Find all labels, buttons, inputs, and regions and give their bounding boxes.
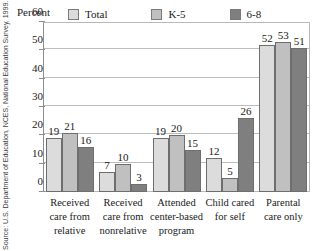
category-label: Receivedcare fromnonrelative	[92, 196, 153, 238]
bar-value-label: 10	[111, 152, 135, 163]
y-tick-label: 10	[17, 147, 43, 158]
bar-total	[259, 45, 275, 192]
bar-k-5	[275, 42, 291, 192]
bar-total	[153, 138, 169, 192]
legend-swatch-icon	[68, 9, 79, 20]
y-axis-labels: 0102030405060	[11, 22, 43, 192]
y-tick-label: 20	[17, 119, 43, 130]
bar-6-8	[185, 150, 201, 193]
category-label-line: relative	[39, 224, 100, 238]
bar-value-label: 16	[74, 135, 98, 146]
y-tick-label: 60	[17, 6, 43, 17]
category-label-line: program	[146, 224, 207, 238]
legend-swatch-icon	[151, 9, 162, 20]
y-tick-label: 40	[17, 62, 43, 73]
bar-6-8	[238, 118, 254, 192]
y-tick-label: 30	[17, 91, 43, 102]
bar-group: 7103	[99, 22, 147, 192]
category-label-line: nonrelative	[92, 224, 153, 238]
legend-label: Total	[85, 9, 107, 20]
bar-value-label: 12	[202, 146, 226, 157]
bar-k-5	[222, 178, 238, 192]
legend-swatch-icon	[230, 9, 241, 20]
category-label-line: center-based	[146, 210, 207, 224]
category-label-line: Received	[39, 196, 100, 210]
category-label-line: for self	[199, 210, 260, 224]
legend-item-6-8: 6-8	[230, 6, 262, 22]
category-label: Child caredfor self	[199, 196, 260, 224]
category-label: Parentalcare only	[253, 196, 314, 224]
bar-value-label: 26	[234, 106, 258, 117]
category-label: Attendedcenter-basedprogram	[146, 196, 207, 238]
category-label-line: care from	[92, 210, 153, 224]
bar-value-label: 15	[181, 138, 205, 149]
bar-total	[46, 138, 62, 192]
bar-group: 12526	[206, 22, 254, 192]
legend-label: 6-8	[247, 9, 262, 20]
bar-value-label: 51	[287, 36, 311, 47]
legend-item-total: Total	[68, 6, 107, 22]
bar-total	[99, 172, 115, 192]
legend-item-k-5: K-5	[151, 6, 185, 22]
category-label-line: Child cared	[199, 196, 260, 210]
bar-value-label: 21	[58, 121, 82, 132]
bar-group: 525351	[259, 22, 307, 192]
y-tick-label: 0	[17, 176, 43, 187]
category-label: Receivedcare fromrelative	[39, 196, 100, 238]
category-label-line: Attended	[146, 196, 207, 210]
bar-chart-figure: Source: U.S. Department of Education, NC…	[0, 0, 317, 251]
bar-group: 192015	[153, 22, 201, 192]
legend-label: K-5	[168, 9, 185, 20]
bar-value-label: 3	[127, 172, 151, 183]
bar-6-8	[131, 184, 147, 193]
bars-layer: 192116710319201512526525351	[43, 22, 310, 192]
bar-6-8	[78, 147, 94, 192]
bar-6-8	[291, 48, 307, 193]
bar-group: 192116	[46, 22, 94, 192]
chart-legend: TotalK-56-8	[68, 6, 261, 22]
category-label-line: Parental	[253, 196, 314, 210]
category-label-line: Received	[92, 196, 153, 210]
x-axis-labels: Receivedcare fromrelativeReceivedcare fr…	[43, 196, 310, 251]
category-label-line: care only	[253, 210, 314, 224]
bar-value-label: 20	[165, 123, 189, 134]
y-tick-label: 50	[17, 34, 43, 45]
category-label-line: care from	[39, 210, 100, 224]
